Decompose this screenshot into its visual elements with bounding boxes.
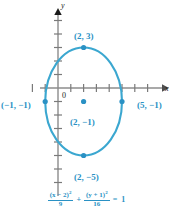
term2-numerator: (y + 1)2 — [84, 192, 110, 199]
label-center: (2, −1) — [70, 117, 95, 127]
y-axis-label: y — [61, 1, 65, 10]
equation-term-2: (y + 1)2 16 — [84, 192, 110, 209]
label-vertex-bottom: (2, −5) — [74, 172, 99, 182]
x-axis-label: x — [165, 84, 169, 93]
equation-equals-sign: = — [112, 196, 119, 204]
point-covertex-right — [119, 99, 124, 104]
ellipse-equation: (x − 2)2 9 + (y + 1)2 16 = 1 — [0, 190, 174, 209]
equation-plus-operator: + — [75, 196, 82, 204]
term2-denominator: 16 — [91, 201, 102, 208]
label-covertex-right: (5, −1) — [137, 100, 162, 110]
term1-denominator: 9 — [57, 201, 65, 208]
term1-exponent: 2 — [69, 190, 72, 195]
equation-right-side: 1 — [120, 196, 126, 204]
ellipse-figure: y x 0 (2, 3) (2, −5) (−1, −1) (5, −1) (2… — [0, 0, 174, 215]
equation-term-1: (x − 2)2 9 — [48, 192, 74, 209]
term2-exponent: 2 — [105, 190, 108, 195]
point-covertex-left — [43, 99, 48, 104]
label-vertex-top: (2, 3) — [74, 31, 94, 41]
term1-numerator: (x − 2)2 — [48, 192, 74, 199]
point-vertex-bottom — [81, 153, 86, 158]
point-center — [81, 99, 86, 104]
point-vertex-top — [81, 45, 86, 50]
origin-label: 0 — [62, 91, 66, 100]
label-covertex-left: (−1, −1) — [1, 100, 31, 110]
